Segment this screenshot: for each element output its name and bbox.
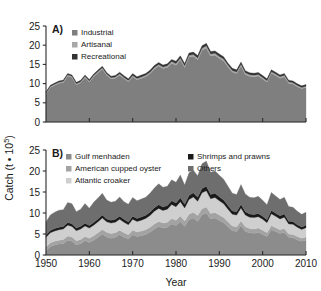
x-axis-title: Year [165,276,187,288]
x-tick-label: 2010 [295,258,318,269]
y-tick-label: 10 [29,208,41,219]
y-tick-label: 15 [29,187,41,198]
legend-label-recreational: Recreational [81,52,126,61]
legend-label-gulf-menhaden: Gulf menhaden [75,152,130,161]
y-tick-label: 5 [34,97,40,108]
legend-label-american-cupped-oyster: American cupped oyster [75,164,162,173]
y-tick-label: 5 [34,229,40,240]
legend-swatch-atlantic-croaker [66,178,72,184]
panel-b-label: B) [52,147,63,159]
legend-label-others: Others [197,164,221,173]
x-tick-label: 1980 [165,258,188,269]
x-tick-label: 1970 [122,258,145,269]
y-tick-label: 0 [34,117,40,128]
legend-label-atlantic-croaker: Atlantic croaker [75,176,130,185]
legend-swatch-shrimps-and-prawns [188,154,194,160]
legend-swatch-gulf-menhaden [66,154,72,160]
legend-label-artisanal: Artisanal [81,40,112,49]
legend-label-industrial: Industrial [81,28,114,37]
legend-swatch-others [188,166,194,172]
legend-label-shrimps-and-prawns: Shrimps and prawns [197,152,270,161]
y-axis-title-close: ) [3,135,15,139]
legend-swatch-american-cupped-oyster [66,166,72,172]
y-tick-label: 25 [29,21,41,32]
y-tick-label: 25 [29,145,41,156]
figure-container: Catch (t • 105) 0510152025 A) Industrial… [0,0,321,291]
x-tick-label: 2000 [252,258,275,269]
x-tick-label: 1950 [35,258,58,269]
svg-text:Catch (t • 105): Catch (t • 105) [2,135,15,201]
y-axis-title-main: Catch (t • 10 [3,143,15,201]
legend-swatch-artisanal [72,42,78,48]
panel-a-label: A) [52,23,63,35]
catch-timeseries-figure: Catch (t • 105) 0510152025 A) Industrial… [0,0,321,291]
y-tick-label: 20 [29,40,41,51]
y-tick-label: 20 [29,166,41,177]
legend-swatch-industrial [72,30,78,36]
legend-swatch-recreational [72,54,78,60]
y-tick-label: 10 [29,78,41,89]
x-tick-label: 1990 [208,258,231,269]
y-tick-label: 15 [29,59,41,70]
x-tick-label: 1960 [78,258,101,269]
y-axis-title: Catch (t • 105) [2,135,15,201]
